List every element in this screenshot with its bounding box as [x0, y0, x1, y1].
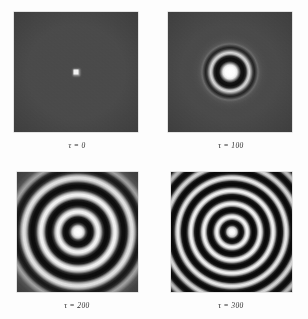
wavefield-rings-tau-100: [168, 12, 292, 132]
caption-text: τ = 0: [68, 141, 85, 150]
panel-tau-200: τ = 200: [0, 160, 154, 319]
caption-text: τ = 200: [64, 301, 90, 310]
wavefield-rings-tau-200: [17, 172, 138, 292]
panel-image-tau-300: [171, 172, 292, 292]
impulse-source-marker: [74, 70, 79, 75]
wavefield-rings-tau-300: [171, 172, 292, 292]
panel-tau-300: τ = 300: [154, 160, 308, 319]
caption-text: τ = 100: [218, 141, 244, 150]
caption-text: τ = 300: [218, 301, 244, 310]
figure-panel-grid: τ = 0 τ = 100 τ = 200 τ = 300: [0, 0, 308, 319]
panel-image-tau-100: [168, 12, 292, 132]
panel-caption-tau-200: τ = 200: [0, 301, 154, 310]
panel-caption-tau-300: τ = 300: [154, 301, 308, 310]
panel-caption-tau-100: τ = 100: [154, 141, 308, 150]
panel-image-tau-200: [17, 172, 138, 292]
panel-caption-tau-0: τ = 0: [0, 141, 154, 150]
panel-tau-0: τ = 0: [0, 0, 154, 159]
panel-image-tau-0: [14, 12, 138, 132]
panel-tau-100: τ = 100: [154, 0, 308, 159]
